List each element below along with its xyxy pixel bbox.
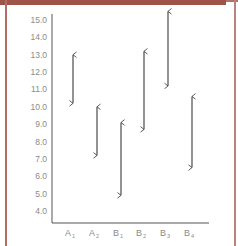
y-tick-label: 15.0 — [30, 15, 47, 25]
y-tick-label: 4.0 — [35, 206, 47, 216]
x-axis-labels: A1A2B1B2B3B4 — [65, 228, 194, 239]
y-axis-ticks: 15.014.013.012.011.010.09.08.07.06.05.04… — [30, 15, 47, 216]
y-tick-label: 5.0 — [35, 189, 47, 199]
x-category-label: A1 — [65, 228, 75, 239]
y-tick-label: 12.0 — [30, 67, 47, 77]
x-category-label: A2 — [89, 228, 99, 239]
x-category-label: B3 — [160, 228, 170, 239]
y-tick-label: 6.0 — [35, 171, 47, 181]
y-tick-label: 7.0 — [35, 154, 47, 164]
y-tick-label: 8.0 — [35, 137, 47, 147]
y-tick-label: 9.0 — [35, 119, 47, 129]
x-category-label: B1 — [113, 228, 123, 239]
y-tick-label: 10.0 — [30, 102, 47, 112]
x-category-label: B2 — [136, 228, 146, 239]
x-category-label: B4 — [184, 228, 194, 239]
range-chart: 15.014.013.012.011.010.09.08.07.06.05.04… — [0, 0, 238, 246]
y-tick-label: 14.0 — [30, 32, 47, 42]
range-arrows — [73, 11, 192, 195]
y-tick-label: 13.0 — [30, 50, 47, 60]
y-tick-label: 11.0 — [31, 84, 47, 94]
